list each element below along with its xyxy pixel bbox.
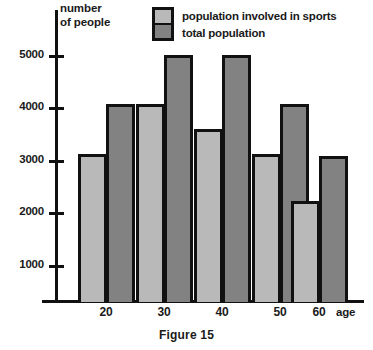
bar-age-30-sports — [136, 104, 165, 302]
x-tick-label-50: 50 — [260, 305, 300, 319]
bar-age-40-total — [222, 55, 251, 302]
bar-age-20-sports — [78, 154, 107, 302]
plot-area — [0, 0, 373, 350]
x-tick-label-60: 60 — [299, 305, 339, 319]
x-axis-title: age — [336, 306, 355, 318]
x-tick-label-40: 40 — [202, 305, 242, 319]
x-tick-label-30: 30 — [144, 305, 184, 319]
bar-age-60-total — [319, 156, 348, 302]
bar-age-50-sports — [252, 154, 281, 302]
figure-15-bar-chart: numberof people population involved in s… — [0, 0, 373, 350]
figure-caption: Figure 15 — [0, 328, 373, 342]
bar-age-30-total — [164, 55, 193, 302]
bar-age-20-total — [106, 104, 135, 302]
x-tick-label-20: 20 — [86, 305, 126, 319]
bar-age-40-sports — [194, 129, 223, 302]
bar-age-60-sports — [291, 201, 320, 302]
